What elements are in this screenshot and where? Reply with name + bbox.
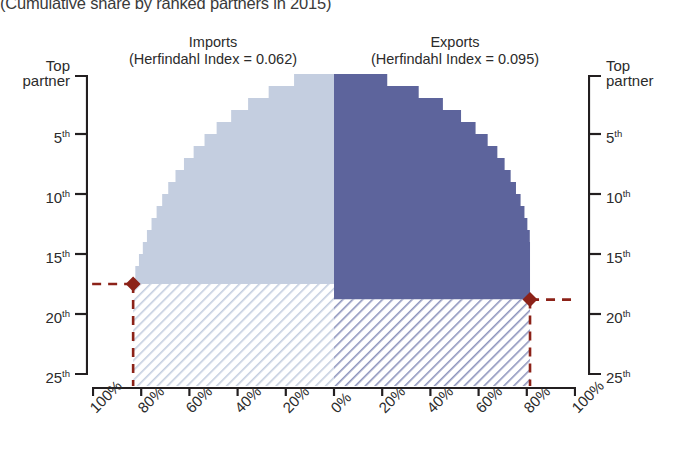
left-tick-label-25: 25th	[0, 366, 70, 385]
left-tick-label-20: 20th	[0, 306, 70, 325]
imports-solid-shape	[133, 74, 334, 284]
right-tick-label-10: 10th	[606, 186, 676, 205]
right-tick-label-20: 20th	[606, 306, 676, 325]
axis-line	[75, 76, 87, 374]
imports-herfindahl-index: (Herfindahl Index = 0.062)	[92, 51, 334, 68]
imports-hatched-shape	[133, 284, 334, 386]
right-tick-label-top: Toppartner	[606, 58, 676, 88]
cumulative-share-chart	[92, 74, 575, 386]
right-tick-label-5: 5th	[606, 126, 676, 145]
left-tick-label-15: 15th	[0, 246, 70, 265]
imports-panel-header: Imports (Herfindahl Index = 0.062)	[92, 34, 334, 68]
imports-hatched-area	[133, 284, 334, 386]
imports-panel-name: Imports	[92, 34, 334, 51]
right-tick-label-25: 25th	[606, 366, 676, 385]
left-tick-label-5: 5th	[0, 126, 70, 145]
right-tick-label-15: 15th	[606, 246, 676, 265]
exports-solid-shape	[334, 74, 530, 300]
left-tick-label-top: Toppartner	[0, 58, 70, 88]
left-axis-spine	[74, 74, 88, 386]
axis-line	[589, 76, 601, 374]
exports-solid-area	[334, 74, 530, 300]
exports-panel-name: Exports	[334, 34, 576, 51]
exports-hatched-shape	[334, 300, 530, 386]
exports-panel-header: Exports (Herfindahl Index = 0.095)	[334, 34, 576, 68]
chart-title: (Cumulative share by ranked partners in …	[0, 0, 331, 13]
exports-hatched-area	[334, 300, 530, 386]
exports-herfindahl-index: (Herfindahl Index = 0.095)	[334, 51, 576, 68]
chart-plot-area	[92, 74, 575, 386]
left-tick-label-10: 10th	[0, 186, 70, 205]
imports-solid-area	[133, 74, 334, 284]
right-axis-spine	[588, 74, 602, 386]
